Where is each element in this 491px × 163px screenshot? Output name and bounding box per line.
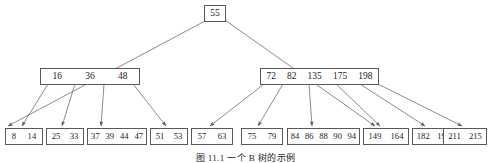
btree-key: 84 <box>291 132 300 141</box>
btree-key: 198 <box>358 72 372 82</box>
btree-key: 33 <box>70 132 79 141</box>
btree-figure: 5516364872821351751988142533373944475153… <box>0 0 491 163</box>
btree-key: 47 <box>134 132 143 141</box>
btree-node-keys: 7282135175198 <box>261 72 378 82</box>
btree-node-keys: 37394447 <box>88 132 146 141</box>
btree-edge-internal-right-to-leaf-5 <box>210 84 264 126</box>
btree-key: 75 <box>248 132 257 141</box>
btree-key: 215 <box>469 132 482 141</box>
btree-key: 63 <box>218 132 227 141</box>
btree-node-leaf-2: 2533 <box>46 128 84 145</box>
btree-key: 94 <box>348 132 357 141</box>
btree-edge-internal-right-to-leaf-9 <box>360 84 425 126</box>
btree-node-leaf-3: 37394447 <box>87 128 147 145</box>
btree-node-keys: 8486889094 <box>288 132 359 141</box>
btree-node-keys: 5763 <box>192 132 232 141</box>
btree-key: 175 <box>333 72 347 82</box>
btree-node-keys: 814 <box>6 132 42 141</box>
btree-node-leaf-10: 211215 <box>443 128 487 145</box>
btree-key: 53 <box>174 132 183 141</box>
btree-key: 55 <box>210 9 220 19</box>
btree-node-root: 55 <box>204 5 226 22</box>
btree-key: 88 <box>319 132 328 141</box>
btree-node-keys: 7579 <box>242 132 282 141</box>
btree-key: 211 <box>448 132 461 141</box>
btree-edge-internal-left-to-leaf-2 <box>62 84 75 126</box>
btree-node-internal-left: 163648 <box>40 68 140 85</box>
btree-key: 25 <box>52 132 61 141</box>
btree-key: 182 <box>417 132 430 141</box>
btree-node-keys: 211215 <box>444 132 486 141</box>
btree-key: 48 <box>118 72 128 82</box>
btree-key: 8 <box>12 132 16 141</box>
btree-key: 39 <box>105 132 114 141</box>
btree-edge-internal-left-to-leaf-3 <box>101 84 104 126</box>
btree-edge-internal-left-to-leaf-4 <box>133 84 166 126</box>
btree-key: 57 <box>198 132 207 141</box>
btree-node-keys: 149164 <box>364 132 408 141</box>
btree-key: 164 <box>391 132 404 141</box>
btree-node-leaf-8: 149164 <box>363 128 409 145</box>
btree-edge-internal-right-to-leaf-10 <box>378 84 462 126</box>
btree-key: 82 <box>287 72 297 82</box>
figure-caption: 图 11.1 一个 B 树的示例 <box>0 151 491 163</box>
btree-key: 16 <box>53 72 63 82</box>
btree-key: 90 <box>333 132 342 141</box>
btree-key: 36 <box>85 72 95 82</box>
btree-key: 149 <box>369 132 382 141</box>
btree-node-keys: 55 <box>205 9 225 19</box>
btree-key: 14 <box>28 132 37 141</box>
btree-key: 51 <box>156 132 165 141</box>
btree-edge-internal-right-to-leaf-8 <box>336 84 380 126</box>
btree-node-leaf-6: 7579 <box>241 128 283 145</box>
btree-node-keys: 2533 <box>47 132 83 141</box>
btree-node-keys: 163648 <box>41 72 139 82</box>
btree-node-leaf-1: 814 <box>5 128 43 145</box>
btree-key: 79 <box>268 132 277 141</box>
btree-key: 37 <box>91 132 100 141</box>
btree-key: 135 <box>308 72 322 82</box>
btree-key: 44 <box>120 132 129 141</box>
btree-key: 72 <box>267 72 277 82</box>
btree-key: 86 <box>305 132 314 141</box>
btree-node-leaf-4: 5153 <box>150 128 188 145</box>
btree-node-leaf-5: 5763 <box>191 128 233 145</box>
btree-node-leaf-7: 8486889094 <box>287 128 360 145</box>
btree-node-internal-right: 7282135175198 <box>260 68 379 85</box>
btree-node-keys: 5153 <box>151 132 187 141</box>
btree-edge-internal-left-to-leaf-1 <box>22 84 48 126</box>
btree-edge-internal-right-to-leaf-6 <box>258 84 283 126</box>
btree-edge-internal-right-to-leaf-7 <box>309 84 312 126</box>
